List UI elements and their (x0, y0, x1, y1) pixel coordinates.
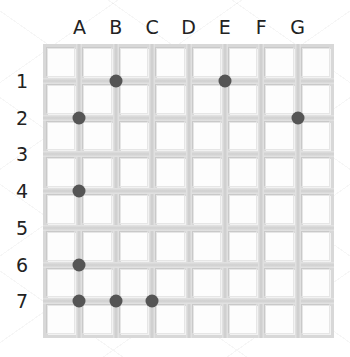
grid-cell-face (120, 232, 148, 261)
grid-cell-face (302, 232, 330, 261)
grid-cell-face (193, 232, 221, 261)
grid-cell (189, 301, 225, 338)
grid-cell-face (156, 158, 184, 187)
grid-cell (152, 154, 188, 191)
row-label: 4 (16, 180, 28, 202)
grid-cell (261, 265, 297, 302)
grid-cell (79, 301, 115, 338)
grid-cell (261, 154, 297, 191)
grid-cell (79, 191, 115, 228)
grid-cell (189, 154, 225, 191)
grid-cell-face (156, 48, 184, 77)
grid-cell-face (120, 85, 148, 114)
grid-cell-face (47, 122, 75, 151)
grid-cell-face (156, 122, 184, 151)
grid-cell-face (83, 269, 111, 298)
grid-cell (189, 228, 225, 265)
grid-cell-face (193, 195, 221, 224)
grid-cell-face (302, 85, 330, 114)
grid-cell (152, 81, 188, 118)
grid-cell-face (229, 48, 257, 77)
grid-cell-face (156, 232, 184, 261)
row-label: 2 (16, 107, 28, 129)
grid-cell (225, 44, 261, 81)
row-label: 1 (16, 70, 28, 92)
grid-cell-face (47, 269, 75, 298)
grid-cell-face (47, 232, 75, 261)
grid-line-horizontal (43, 225, 334, 231)
row-label: 7 (16, 290, 28, 312)
grid-cell-face (193, 85, 221, 114)
grid-cell-face (265, 48, 293, 77)
point-marker-A2 (73, 111, 86, 124)
grid-cell (116, 228, 152, 265)
grid-cell (79, 118, 115, 155)
grid-cell-face (265, 305, 293, 334)
grid-cell (43, 191, 79, 228)
grid-cell (152, 118, 188, 155)
grid-cell (116, 118, 152, 155)
grid-cell-face (265, 158, 293, 187)
grid-cell (43, 118, 79, 155)
column-label: F (256, 16, 267, 38)
grid-cell-face (265, 85, 293, 114)
grid-cell (225, 81, 261, 118)
grid-cell-face (265, 232, 293, 261)
grid-cell-face (265, 195, 293, 224)
grid-cell (298, 81, 334, 118)
grid-cell (261, 118, 297, 155)
column-label: B (109, 16, 122, 38)
grid-cell (189, 118, 225, 155)
grid-cell-face (83, 305, 111, 334)
grid-cell-face (193, 48, 221, 77)
grid-cell (225, 154, 261, 191)
grid-line-horizontal (43, 298, 334, 304)
grid-cell-face (120, 122, 148, 151)
grid-cell-face (265, 269, 293, 298)
grid-cell (261, 191, 297, 228)
grid-cell-face (47, 195, 75, 224)
point-marker-A4 (73, 185, 86, 198)
grid-cell-face (156, 195, 184, 224)
grid-cell (116, 44, 152, 81)
grid-cell-face (83, 48, 111, 77)
grid-cell (261, 228, 297, 265)
grid-cell (225, 118, 261, 155)
grid-cell (152, 301, 188, 338)
point-marker-A6 (73, 258, 86, 271)
grid-cell-face (120, 195, 148, 224)
grid-cell (261, 44, 297, 81)
grid-cell-face (193, 269, 221, 298)
point-marker-G2 (291, 111, 304, 124)
column-label: D (181, 16, 196, 38)
grid-cell (225, 265, 261, 302)
grid-cell-face (47, 48, 75, 77)
row-label: 5 (16, 217, 28, 239)
grid-cell (298, 265, 334, 302)
point-marker-B7 (109, 295, 122, 308)
grid-cell-face (229, 122, 257, 151)
grid-cell-face (265, 122, 293, 151)
grid-cell (79, 228, 115, 265)
grid-cell (225, 228, 261, 265)
grid-cell-face (229, 269, 257, 298)
grid-cell (298, 301, 334, 338)
point-marker-A7 (73, 295, 86, 308)
grid-cell (152, 191, 188, 228)
grid-cell-face (193, 305, 221, 334)
grid-cell (116, 301, 152, 338)
grid-cell-face (120, 305, 148, 334)
grid-cell-face (229, 195, 257, 224)
grid-cell (261, 301, 297, 338)
grid-cell-face (229, 85, 257, 114)
grid-cell (43, 301, 79, 338)
grid-cell-face (302, 48, 330, 77)
column-label: C (145, 16, 158, 38)
grid-line-vertical (186, 44, 192, 338)
grid-cell-face (156, 305, 184, 334)
grid-cell (189, 265, 225, 302)
grid-cell (116, 191, 152, 228)
grid-cell-face (193, 122, 221, 151)
grid-cell (116, 154, 152, 191)
grid-cell-face (156, 85, 184, 114)
